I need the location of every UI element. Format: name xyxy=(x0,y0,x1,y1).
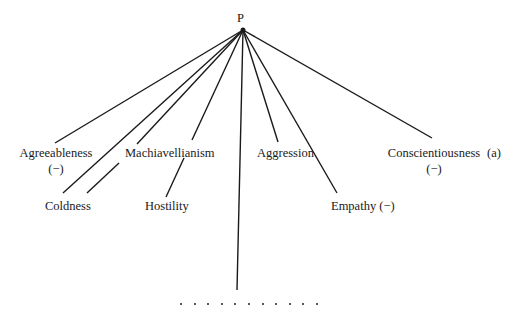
line-machiavellianism xyxy=(192,30,243,140)
dot xyxy=(316,303,318,305)
dot xyxy=(262,303,264,305)
figure-tag: (a) xyxy=(487,146,501,160)
node-machiavellianism: Machiavellianism xyxy=(125,146,215,160)
dot xyxy=(207,303,209,305)
node-hostility: Hostility xyxy=(145,199,189,213)
dot xyxy=(275,303,277,305)
dot xyxy=(194,303,196,305)
dot xyxy=(234,303,236,305)
apex-label: P xyxy=(237,11,244,25)
dot xyxy=(289,303,291,305)
node-sign: (−) xyxy=(18,162,94,176)
node-empathy: Empathy (−) xyxy=(331,199,395,213)
dot xyxy=(221,303,223,305)
node-aggression: Aggression xyxy=(257,146,314,160)
line-coldness-right-upper xyxy=(137,30,243,144)
node-sign: (−) xyxy=(385,162,483,176)
line-empathy xyxy=(243,30,337,193)
line-vertical xyxy=(237,30,243,290)
line-hostility xyxy=(166,158,184,197)
node-label: Agreeableness xyxy=(18,146,94,160)
line-agreeableness xyxy=(55,30,243,143)
node-label: Conscientiousness xyxy=(385,146,483,160)
apex-node xyxy=(241,28,246,33)
node-coldness: Coldness xyxy=(45,199,91,213)
ellipsis-dots xyxy=(180,294,330,309)
dot xyxy=(180,303,182,305)
node-agreeableness: Agreeableness (−) xyxy=(18,146,94,176)
node-conscientiousness: Conscientiousness (−) xyxy=(385,146,483,176)
dot xyxy=(248,303,250,305)
dot xyxy=(302,303,304,305)
